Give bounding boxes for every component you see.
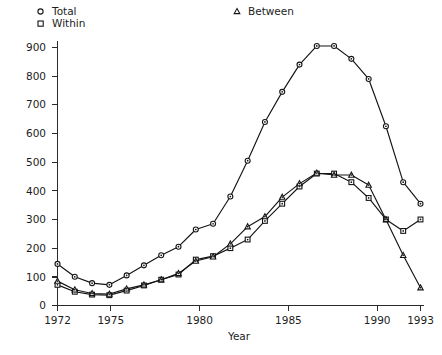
data-point	[385, 219, 387, 221]
data-point	[351, 58, 353, 60]
data-point	[57, 263, 59, 265]
data-point	[230, 196, 232, 198]
data-point	[316, 172, 318, 174]
x-tick-label-1990: 1990	[364, 314, 391, 326]
data-point	[195, 260, 197, 262]
legend-item-between: Between	[234, 5, 294, 17]
data-point	[74, 276, 76, 278]
y-tick-label-600: 600	[26, 127, 46, 139]
line-chart: Total Within Between 900 800 700	[0, 0, 442, 355]
data-point	[385, 125, 387, 127]
series-total	[55, 43, 423, 287]
y-tick-label-0: 0	[39, 299, 46, 311]
data-point	[351, 181, 353, 183]
data-point	[143, 284, 145, 286]
data-point	[57, 280, 59, 282]
data-point	[368, 197, 370, 199]
data-point	[368, 184, 370, 186]
y-tick-label-500: 500	[26, 156, 46, 168]
x-tick-label-1980: 1980	[186, 314, 213, 326]
data-point	[420, 287, 422, 289]
data-point	[109, 284, 111, 286]
data-point	[402, 230, 404, 232]
data-point	[264, 216, 266, 218]
data-point	[160, 254, 162, 256]
y-tick-label-300: 300	[26, 213, 46, 225]
legend-label-total: Total	[51, 5, 77, 17]
data-point	[247, 239, 249, 241]
x-axis-ticks: 1972 1975 1980 1985 1990 1993 Year	[44, 306, 434, 343]
chart-container: Total Within Between 900 800 700	[0, 0, 442, 355]
data-point	[368, 78, 370, 80]
x-tick-label-1993: 1993	[407, 314, 434, 326]
data-point	[281, 203, 283, 205]
data-point	[91, 282, 93, 284]
data-point	[420, 203, 422, 205]
series-line-between	[58, 173, 421, 294]
y-axis-ticks: 900 800 700 600 500 400 300 200 100 0	[26, 41, 58, 311]
triangle-marker-icon	[234, 9, 240, 14]
data-point	[333, 45, 335, 47]
data-point	[299, 64, 301, 66]
y-tick-label-700: 700	[26, 98, 46, 110]
legend-item-total: Total	[38, 5, 77, 17]
y-tick-label-400: 400	[26, 185, 46, 197]
circle-marker-icon	[38, 9, 43, 14]
data-point	[402, 181, 404, 183]
data-point	[247, 160, 249, 162]
data-point	[264, 220, 266, 222]
legend-label-within: Within	[52, 17, 85, 29]
chart-legend: Total Within Between	[38, 5, 294, 29]
square-marker-icon	[38, 21, 43, 26]
data-point	[57, 284, 59, 286]
data-point	[402, 254, 404, 256]
data-point	[264, 121, 266, 123]
y-tick-label-900: 900	[26, 41, 46, 53]
data-point	[126, 275, 128, 277]
data-point	[126, 288, 128, 290]
legend-label-between: Between	[248, 5, 294, 17]
data-point	[333, 174, 335, 176]
series-within	[55, 171, 423, 297]
series-line-within	[58, 174, 421, 296]
data-point	[281, 91, 283, 93]
x-axis-title: Year	[227, 330, 251, 342]
data-point	[230, 243, 232, 245]
data-point	[281, 196, 283, 198]
series-between	[55, 170, 423, 296]
data-point	[143, 265, 145, 267]
data-point	[74, 289, 76, 291]
data-point	[212, 256, 214, 258]
y-tick-label-200: 200	[26, 242, 46, 254]
x-tick-label-1975: 1975	[97, 314, 124, 326]
data-point	[420, 219, 422, 221]
y-tick-label-100: 100	[26, 271, 46, 283]
series-line-total	[58, 46, 421, 285]
data-point	[351, 174, 353, 176]
data-point	[316, 45, 318, 47]
x-tick-label-1972: 1972	[44, 314, 71, 326]
data-point	[109, 293, 111, 295]
chart-series-layer	[55, 43, 423, 297]
data-point	[299, 183, 301, 185]
data-point	[212, 223, 214, 225]
data-point	[178, 273, 180, 275]
data-point	[160, 279, 162, 281]
y-tick-label-800: 800	[26, 70, 46, 82]
data-point	[91, 293, 93, 295]
data-point	[230, 247, 232, 249]
data-point	[247, 226, 249, 228]
data-point	[178, 246, 180, 248]
x-tick-label-1985: 1985	[275, 314, 302, 326]
data-point	[195, 229, 197, 231]
legend-item-within: Within	[38, 17, 85, 29]
